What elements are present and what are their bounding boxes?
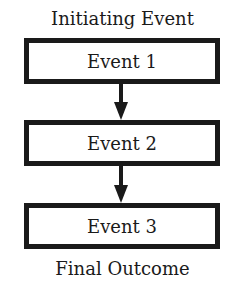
event-2-label: Event 2 bbox=[87, 133, 157, 154]
arrow-down-icon bbox=[114, 84, 128, 120]
event-2-box: Event 2 bbox=[24, 120, 220, 166]
event-3-label: Event 3 bbox=[87, 216, 157, 237]
event-1-box: Event 1 bbox=[24, 38, 220, 84]
event-3-box: Event 3 bbox=[24, 203, 220, 249]
arrow-down-icon bbox=[114, 166, 128, 203]
final-outcome-label: Final Outcome bbox=[0, 258, 245, 280]
initiating-event-label: Initiating Event bbox=[0, 8, 245, 30]
event-1-label: Event 1 bbox=[87, 51, 157, 72]
